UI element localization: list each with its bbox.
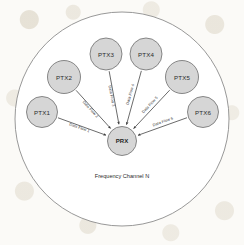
- node-ptx5[interactable]: PTX5: [166, 61, 199, 94]
- node-ptx6[interactable]: PTX6: [188, 97, 219, 128]
- node-ptx6-label: PTX6: [195, 109, 211, 116]
- node-ptx4-label: PTX4: [138, 51, 154, 58]
- node-ptx1[interactable]: PTX1: [27, 97, 58, 128]
- node-ptx4[interactable]: PTX4: [130, 38, 162, 70]
- frequency-channel-caption: Frequency Channel N: [95, 173, 149, 179]
- node-ptx2-label: PTX2: [56, 74, 72, 81]
- node-ptx1-label: PTX1: [34, 109, 50, 116]
- diagram-canvas: Data Flow 1Data Flow 2Data Flow 3Data Fl…: [0, 0, 244, 245]
- node-prx-label: PRX: [116, 138, 129, 144]
- node-ptx3-label: PTX3: [98, 51, 114, 58]
- node-ptx3[interactable]: PTX3: [90, 38, 122, 70]
- node-ptx2[interactable]: PTX2: [48, 61, 81, 94]
- node-prx[interactable]: PRX: [108, 127, 137, 156]
- network-topology-diagram: Data Flow 1Data Flow 2Data Flow 3Data Fl…: [0, 0, 244, 245]
- node-ptx5-label: PTX5: [174, 74, 190, 81]
